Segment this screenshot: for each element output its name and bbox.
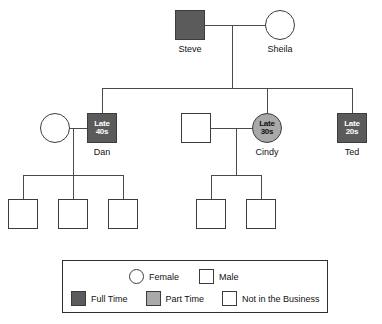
descent-line-dan-family: [73, 128, 74, 175]
person-ted[interactable]: Late 20s: [337, 113, 367, 143]
legend-item-male: Male: [199, 269, 239, 284]
person-dan[interactable]: Late 40s: [87, 113, 117, 143]
person-dan-age-line1: Late: [94, 120, 110, 128]
legend-box: Female Male Full Time Part Time Not in t…: [62, 260, 328, 313]
part-time-swatch-icon: [146, 291, 161, 306]
person-sheila[interactable]: [265, 10, 295, 40]
child-drop-cindy-2: [261, 175, 262, 199]
person-ted-age-line2: 20s: [346, 128, 359, 136]
person-sheila-label: Sheila: [267, 44, 292, 54]
sibling-bar-cindy-children: [211, 175, 261, 176]
legend-gender-row: Female Male: [129, 269, 239, 284]
descent-line-cindy-family: [236, 128, 237, 175]
child-drop-dan-2: [73, 175, 74, 199]
child-drop-dan-3: [123, 175, 124, 199]
person-cindy-label: Cindy: [255, 147, 278, 157]
legend-item-full-time: Full Time: [71, 291, 128, 306]
legend-item-part-time: Part Time: [146, 291, 205, 306]
person-cindy-age-line1: Late: [259, 120, 275, 128]
person-cindy-age-line2: 30s: [261, 128, 274, 136]
person-cindy-spouse[interactable]: [181, 113, 211, 143]
person-cindy-child-1[interactable]: [196, 199, 226, 229]
person-cindy-child-2[interactable]: [246, 199, 276, 229]
descent-line-gen1: [232, 25, 233, 88]
female-circle-icon: [129, 269, 144, 284]
child-drop-cindy-1: [211, 175, 212, 199]
legend-label-part-time: Part Time: [166, 294, 205, 304]
male-square-icon: [199, 269, 214, 284]
legend-label-male: Male: [219, 272, 239, 282]
legend-label-not-in-business: Not in the Business: [242, 294, 320, 304]
legend-label-female: Female: [149, 272, 179, 282]
person-steve-label: Steve: [178, 44, 201, 54]
sibling-drop-cindy: [267, 88, 268, 113]
person-steve[interactable]: [175, 10, 205, 40]
legend-item-not-in-business: Not in the Business: [222, 291, 320, 306]
person-ted-label: Ted: [345, 147, 360, 157]
marriage-line-cindy: [211, 128, 252, 129]
person-dan-child-2[interactable]: [58, 199, 88, 229]
full-time-swatch-icon: [71, 291, 86, 306]
person-dan-label: Dan: [94, 147, 111, 157]
sibling-drop-ted: [352, 88, 353, 113]
not-in-business-swatch-icon: [222, 291, 237, 306]
legend-status-row: Full Time Part Time Not in the Business: [71, 291, 320, 306]
person-dan-age-line2: 40s: [96, 128, 109, 136]
person-ted-age-line1: Late: [344, 120, 360, 128]
sibling-bar-gen2: [102, 88, 352, 89]
person-dan-child-1[interactable]: [8, 199, 38, 229]
marriage-line-steve-sheila: [205, 25, 265, 26]
legend-label-full-time: Full Time: [91, 294, 128, 304]
child-drop-dan-1: [23, 175, 24, 199]
person-dan-spouse[interactable]: [40, 113, 70, 143]
genogram-diagram: Steve Sheila Late 40s Dan Late 30s Cindy…: [0, 0, 382, 324]
sibling-drop-dan: [102, 88, 103, 113]
person-cindy[interactable]: Late 30s: [252, 113, 282, 143]
legend-item-female: Female: [129, 269, 179, 284]
person-dan-child-3[interactable]: [108, 199, 138, 229]
